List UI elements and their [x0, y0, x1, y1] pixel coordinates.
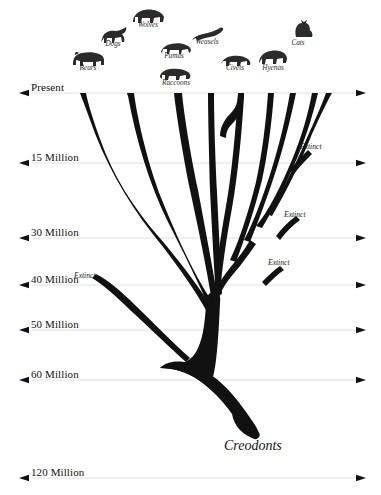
extinct-label-3: Extinct [268, 258, 290, 267]
axis-arrow-right [356, 327, 366, 333]
axis-tick-label-5: 60 Million [31, 368, 79, 380]
axis-arrow-left [19, 377, 29, 383]
axis-tick-label-3: 40 Million [31, 273, 79, 285]
branch-dogs [127, 93, 214, 306]
axis-arrow-right [356, 90, 366, 96]
extinct-label-0: Extinct [74, 271, 96, 280]
root-label-creodonts: Creodonts [224, 438, 282, 454]
taxon-label-wolves: Wolves [126, 21, 170, 29]
axis-arrow-right [356, 475, 366, 481]
taxon-label-bears: Bears [66, 64, 110, 72]
axis-tick-label-2: 30 Million [31, 226, 79, 238]
axis-arrow-left [19, 235, 29, 241]
extinct-label-1: Extinct [300, 142, 322, 151]
branch-extinct-right-3 [262, 266, 284, 286]
taxon-label-dogs: Dogs [91, 40, 135, 48]
branch-extinct-right-2 [276, 216, 300, 240]
axis-arrow-right [356, 160, 366, 166]
cat-icon [288, 18, 324, 40]
axis-tick-label-1: 15 Million [31, 151, 79, 163]
extinct-label-2: Extinct [284, 210, 306, 219]
taxon-label-weasels: Weasels [185, 38, 229, 46]
phylogenetic-tree-figure: Present15 Million30 Million40 Million50 … [0, 0, 381, 495]
axis-arrow-right [356, 235, 366, 241]
axis-arrow-left [19, 475, 29, 481]
taxon-label-raccoons: Raccoons [154, 79, 198, 87]
taxon-label-cats: Cats [276, 39, 320, 47]
axis-tick-label-4: 50 Million [31, 318, 79, 330]
axis-tick-label-0: Present [31, 81, 64, 93]
axis-tick-label-6: 120 Million [31, 466, 84, 478]
taxon-label-pumas: Pumas [152, 52, 196, 60]
axis-arrow-right [356, 377, 366, 383]
taxon-label-hyenas: Hyenas [251, 64, 295, 72]
axis-arrow-left [19, 90, 29, 96]
axis-arrow-left [19, 282, 29, 288]
axis-arrow-right [356, 282, 366, 288]
branch-group [80, 93, 332, 439]
axis-arrow-left [19, 160, 29, 166]
branch-extinct-left [92, 274, 190, 362]
axis-arrow-left [19, 327, 29, 333]
